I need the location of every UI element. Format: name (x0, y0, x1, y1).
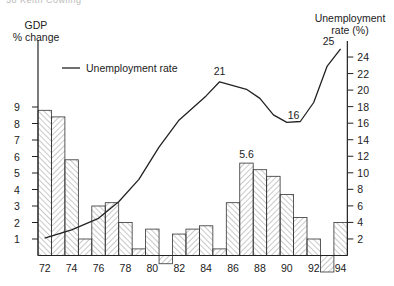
left-tick-label: 7 (14, 134, 20, 146)
right-tick-label: 10 (357, 167, 369, 179)
right-tick-label: 12 (357, 150, 369, 162)
right-tick-label: 14 (357, 134, 369, 146)
x-tick-label: 76 (93, 262, 105, 274)
gdp-bar-82 (173, 234, 186, 255)
x-tick-label: 74 (66, 262, 78, 274)
gdp-bar-73 (51, 117, 64, 256)
unemployment-line (45, 49, 341, 238)
x-tick-label: 90 (281, 262, 293, 274)
x-tick-label: 72 (39, 262, 51, 274)
gdp-bar-79 (132, 249, 145, 256)
right-tick-label: 4 (357, 216, 363, 228)
gdp-bar-74 (65, 160, 78, 256)
legend-label: Unemployment rate (86, 62, 178, 74)
unemployment-polyline (45, 49, 341, 238)
left-tick-label: 5 (14, 167, 20, 179)
annotations: 2116255.6 (214, 35, 335, 160)
left-tick-label: 8 (14, 118, 20, 130)
gdp-bar-88 (253, 170, 266, 256)
right-tick-label: 6 (357, 200, 363, 212)
gdp-bar-92 (307, 239, 320, 256)
x-tick-label: 94 (335, 262, 347, 274)
x-tick-label: 80 (146, 262, 158, 274)
left-tick-label: 3 (14, 200, 20, 212)
annotation-5-6: 5.6 (239, 148, 254, 160)
gdp-bar-72 (38, 110, 51, 255)
legend: Unemployment rate (62, 62, 178, 74)
right-tick-label: 24 (357, 51, 369, 63)
right-tick-label: 16 (357, 117, 369, 129)
gdp-bar-80 (146, 229, 159, 255)
x-tick-label: 82 (173, 262, 185, 274)
x-tick-label: 84 (200, 262, 212, 274)
left-tick-label: 9 (14, 101, 20, 113)
right-tick-label: 8 (357, 183, 363, 195)
gdp-bar-83 (186, 229, 199, 255)
x-tick-label: 86 (227, 262, 239, 274)
left-tick-label: 4 (14, 184, 20, 196)
annotation-25: 25 (323, 35, 335, 47)
gdp-bar-85 (213, 249, 226, 256)
left-tick-label: 2 (14, 217, 20, 229)
right-tick-label: 2 (357, 233, 363, 245)
gdp-bar-84 (199, 226, 212, 256)
gdp-unemployment-chart: 1234567892468101214161820222472747678808… (0, 0, 394, 286)
gdp-bar-91 (294, 218, 307, 256)
x-tick-label: 92 (308, 262, 320, 274)
gdp-bar-86 (226, 203, 239, 256)
gdp-bar-78 (119, 223, 132, 256)
left-tick-label: 6 (14, 151, 20, 163)
gdp-bar-89 (267, 176, 280, 255)
left-tick-label: 1 (14, 233, 20, 245)
gdp-bars (38, 110, 347, 272)
gdp-bar-93 (320, 256, 333, 273)
gdp-bar-87 (240, 163, 253, 255)
gdp-bar-94 (334, 223, 347, 256)
gdp-bar-76 (92, 206, 105, 256)
annotation-21: 21 (214, 65, 226, 77)
x-tick-label: 88 (254, 262, 266, 274)
gdp-bar-75 (78, 239, 91, 256)
right-tick-label: 20 (357, 84, 369, 96)
x-tick-label: 78 (120, 262, 132, 274)
right-tick-label: 22 (357, 68, 369, 80)
gdp-bar-90 (280, 194, 293, 255)
right-tick-label: 18 (357, 101, 369, 113)
gdp-bar-81 (159, 256, 172, 264)
annotation-16: 16 (288, 109, 300, 121)
